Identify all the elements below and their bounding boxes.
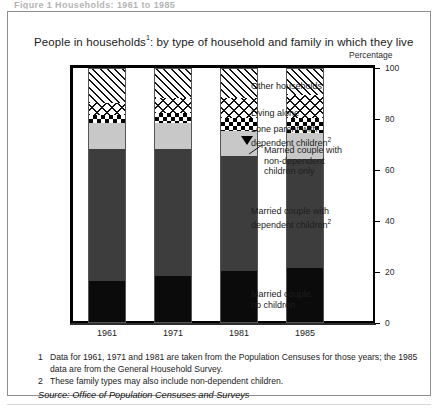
- y-tick-label-0: 0: [385, 318, 390, 328]
- footnote-text-2: These family types may also include non-…: [50, 376, 283, 386]
- footnote-number-1: 1: [38, 352, 43, 364]
- bar-segment-other-households: [221, 68, 257, 98]
- x-axis-labels: 1961197119811985: [70, 328, 375, 344]
- footnote-text-1: Data for 1961, 1971 and 1981 are taken f…: [50, 352, 417, 374]
- bar-segment-other-households: [287, 68, 323, 95]
- bar-segment-living-alone: [155, 98, 191, 113]
- y-tick-label-20: 20: [385, 267, 394, 277]
- y-tick-mark-80: [375, 119, 380, 120]
- bottom-divider: [7, 404, 431, 405]
- y-tick-label-40: 40: [385, 216, 394, 226]
- x-tick-label-1961: 1961: [77, 328, 137, 338]
- bar-segment-married-couple-with-non-dependent-children-only: [221, 131, 257, 157]
- clipped-header-text: Figure 1 Households: 1961 to 1985: [14, 0, 214, 9]
- bar-segment-other-households: [89, 68, 125, 103]
- figure-title-rest: : by type of household and family in whi…: [150, 36, 413, 48]
- bar-segment-married-couple-with-dependent-children: [89, 149, 125, 282]
- x-tick-label-1981: 1981: [209, 328, 269, 338]
- bar-1981[interactable]: [220, 68, 258, 323]
- bar-segment-married-couple-with-dependent-children: [155, 149, 191, 277]
- bar-segment-lone-parent-with-dependent-children: [221, 118, 257, 131]
- footnote-number-2: 2: [38, 376, 43, 388]
- y-tick-mark-100: [375, 68, 380, 69]
- bar-1971[interactable]: [154, 68, 192, 323]
- bar-segment-married-couple-no-children: [155, 276, 191, 322]
- bar-segment-married-couple-no-children: [89, 281, 125, 322]
- bar-segment-lone-parent-with-dependent-children: [155, 113, 191, 123]
- x-tick-label-1985: 1985: [275, 328, 335, 338]
- y-axis: 020406080100: [375, 65, 435, 324]
- y-tick-label-100: 100: [385, 63, 399, 73]
- y-tick-label-60: 60: [385, 165, 394, 175]
- footnote-2: 2These family types may also include non…: [38, 376, 428, 388]
- axis-unit-label: Percentage: [349, 50, 392, 60]
- footnote-1: 1Data for 1961, 1971 and 1981 are taken …: [38, 352, 428, 375]
- bar-1985[interactable]: [286, 68, 324, 323]
- y-tick-mark-60: [375, 170, 380, 171]
- x-tick-label-1971: 1971: [143, 328, 203, 338]
- y-tick-mark-20: [375, 272, 380, 273]
- bar-segment-other-households: [155, 68, 191, 98]
- bar-segment-married-couple-with-non-dependent-children-only: [287, 133, 323, 159]
- figure-box: People in households1: by type of househ…: [7, 11, 431, 396]
- figure-page: Figure 1 Households: 1961 to 1985 People…: [0, 0, 448, 412]
- bar-segment-married-couple-with-non-dependent-children-only: [155, 123, 191, 149]
- axis-baseline: [70, 323, 376, 325]
- source-line: Source: Office of Population Censuses an…: [38, 390, 249, 400]
- bars-container: [70, 68, 375, 323]
- bar-segment-living-alone: [221, 98, 257, 118]
- bar-segment-living-alone: [287, 95, 323, 118]
- bar-segment-married-couple-with-dependent-children: [221, 156, 257, 271]
- y-tick-label-80: 80: [385, 114, 394, 124]
- bar-1961[interactable]: [88, 68, 126, 323]
- y-tick-mark-0: [375, 323, 380, 324]
- figure-title-main: People in households: [34, 36, 146, 48]
- y-tick-mark-40: [375, 221, 380, 222]
- bar-segment-living-alone: [89, 103, 125, 116]
- bar-segment-lone-parent-with-dependent-children: [89, 115, 125, 123]
- figure-title: People in households1: by type of househ…: [34, 34, 413, 48]
- bar-segment-married-couple-no-children: [287, 268, 323, 322]
- bar-segment-married-couple-with-dependent-children: [287, 159, 323, 269]
- bar-segment-lone-parent-with-dependent-children: [287, 118, 323, 133]
- bar-segment-married-couple-with-non-dependent-children-only: [89, 123, 125, 149]
- bar-segment-married-couple-no-children: [221, 271, 257, 322]
- footnotes: 1Data for 1961, 1971 and 1981 are taken …: [38, 352, 428, 389]
